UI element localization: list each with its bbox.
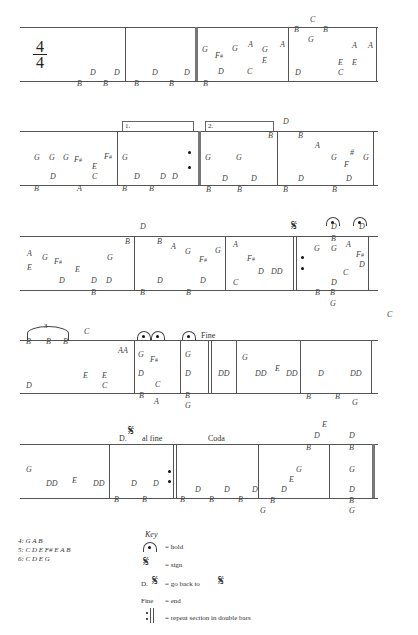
note-letter: B [238, 496, 243, 504]
fine-marking: Fine [201, 331, 215, 340]
note-letter: D [140, 223, 146, 231]
note-letter: B [268, 132, 273, 140]
note-letter: G [331, 154, 337, 162]
note-letter: B [283, 186, 288, 194]
note-letter: B [34, 185, 39, 193]
staff-3-bottom [20, 290, 378, 291]
note-letter: F# [150, 356, 158, 364]
note-letter: D [200, 277, 206, 285]
note-letter: B [122, 185, 127, 193]
note-letter: C [84, 328, 89, 336]
note-letter: G [63, 154, 69, 162]
note-letter: B [349, 497, 354, 505]
note-letter: G [138, 351, 144, 359]
staff-1-bottom [20, 81, 378, 82]
note-letter: G [205, 154, 211, 162]
note-letter: B [180, 496, 185, 504]
repeat-dot [146, 618, 148, 620]
note-letter: B [149, 185, 154, 193]
chord-6: 6: C D E G [18, 555, 50, 563]
note-letter: E [92, 163, 97, 171]
repeat-icon [150, 608, 154, 623]
barline [277, 131, 278, 185]
note-letter: B [142, 496, 147, 504]
chord-4: 4: G A B [18, 537, 42, 545]
fermata-icon [151, 331, 165, 340]
note-letter: B [46, 338, 51, 346]
staff-2-bottom [20, 185, 378, 186]
note-letter: C [92, 173, 97, 181]
coda-marking: Coda [208, 434, 225, 443]
staff-3-top [20, 236, 378, 237]
note-letter: D [224, 486, 230, 494]
note-letter: G [202, 46, 208, 54]
note-letter: B [335, 393, 340, 401]
note-letter: DD [271, 268, 283, 276]
note-letter: B [26, 338, 31, 346]
note-letter: G [296, 466, 302, 474]
key-fine-prefix: Fine [141, 597, 153, 605]
staff-5-top [20, 444, 378, 445]
note-letter: B [91, 289, 96, 297]
note-letter: G [34, 154, 40, 162]
note-letter: D [298, 175, 304, 183]
note-letter: D [185, 370, 191, 378]
repeat-dot [188, 151, 191, 154]
staff-5-bottom [20, 498, 378, 499]
note-letter: D [26, 382, 32, 390]
note-letter: B [140, 289, 145, 297]
note-letter: G [308, 36, 314, 44]
note-letter: B [203, 80, 208, 88]
note-letter: E [338, 59, 343, 67]
note-letter: DD [218, 370, 230, 378]
segno-icon: 𝄋 [143, 555, 149, 569]
note-letter: E [83, 372, 88, 380]
note-letter: D [59, 277, 65, 285]
barline [134, 236, 135, 290]
note-letter: A [248, 41, 253, 49]
repeat-dot [146, 612, 148, 614]
note-letter: G [185, 351, 191, 359]
repeat-barline [173, 444, 177, 498]
barline [236, 340, 237, 393]
time-signature-top: 4 [33, 40, 47, 53]
note-letter: D [331, 279, 337, 287]
note-letter: D [251, 175, 257, 183]
note-letter: D [258, 268, 264, 276]
note-letter: B [298, 132, 303, 140]
note-letter: G [236, 154, 242, 162]
note-letter: C [387, 311, 392, 319]
note-letter: B [315, 289, 320, 297]
repeat-dot [188, 166, 191, 169]
staff-4-top [20, 340, 378, 341]
note-letter: B [114, 496, 119, 504]
note-letter: D [184, 69, 190, 77]
note-letter: G [349, 466, 355, 474]
note-letter: G [49, 154, 55, 162]
note-letter: F# [215, 52, 223, 60]
note-letter: G [242, 354, 248, 362]
note-letter: D [50, 173, 56, 181]
note-letter: E [322, 421, 327, 429]
note-letter: B [209, 496, 214, 504]
note-letter: C [102, 382, 107, 390]
note-letter: C [233, 279, 238, 287]
note-letter: G [349, 507, 355, 515]
note-letter: G [26, 466, 32, 474]
barline [329, 444, 330, 498]
note-letter: C [247, 68, 252, 76]
repeat-dot [168, 480, 171, 483]
note-letter: C [343, 269, 348, 277]
note-letter: A [171, 243, 176, 251]
note-letter: D [359, 261, 365, 269]
barline [368, 236, 369, 290]
note-letter: B [63, 338, 68, 346]
barline [109, 444, 110, 498]
note-letter: C [155, 381, 160, 389]
note-letter: E [352, 59, 357, 67]
chord-5: 5: C D E F# E A B [18, 546, 70, 554]
barline [258, 444, 259, 498]
barline [288, 27, 289, 81]
note-letter: G [185, 402, 191, 410]
note-letter: DD [93, 480, 105, 488]
